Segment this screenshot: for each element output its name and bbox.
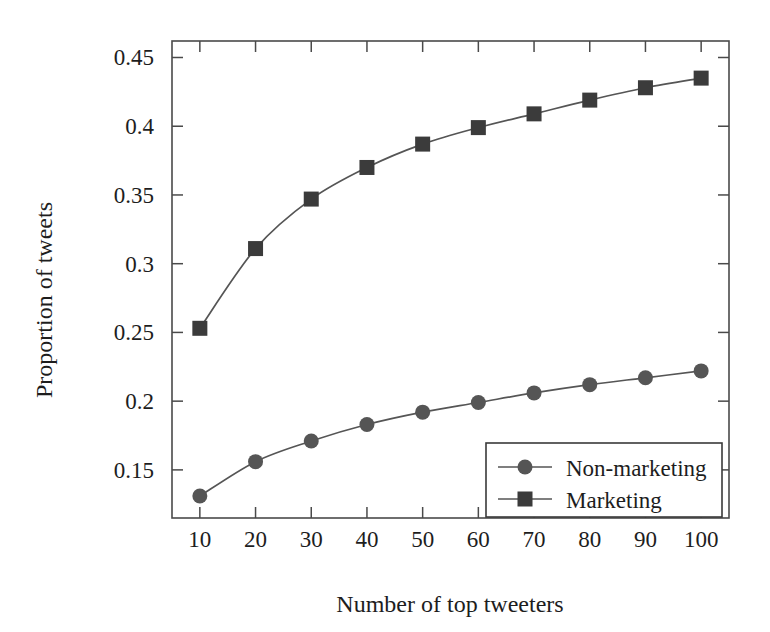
data-point-square [694,71,709,86]
x-tick-label: 10 [188,527,211,552]
y-tick-label: 0.35 [114,183,154,208]
y-tick-label: 0.3 [125,252,154,277]
x-tick-label: 100 [684,527,719,552]
data-point-square [192,321,207,336]
chart-legend: Non-marketing Marketing [486,443,722,517]
data-point-circle [471,395,486,410]
legend-label-marketing: Marketing [566,488,662,513]
y-tick-label: 0.25 [114,320,154,345]
x-axis-title: Number of top tweeters [336,591,563,617]
chart-figure: 0.150.20.250.30.350.40.45 10203040506070… [0,0,770,632]
line-chart-canvas: 0.150.20.250.30.350.40.45 10203040506070… [0,0,770,632]
data-point-square [582,93,597,108]
data-point-circle [694,363,709,378]
data-point-circle [359,417,374,432]
data-point-square [304,192,319,207]
y-tick-label: 0.2 [125,389,154,414]
x-tick-label: 60 [467,527,490,552]
legend-label-non-marketing: Non-marketing [566,456,707,481]
series-line [200,78,701,328]
data-point-circle [304,434,319,449]
legend-marker-circle-icon [518,460,533,475]
y-tick-label: 0.4 [125,114,154,139]
data-point-circle [527,385,542,400]
legend-marker-square-icon [518,492,533,507]
y-axis-title: Proportion of tweets [31,202,57,398]
data-point-square [415,137,430,152]
data-point-square [359,160,374,175]
x-tick-label: 20 [244,527,267,552]
x-tick-label: 80 [578,527,601,552]
x-tick-label: 40 [355,527,378,552]
x-tick-label: 30 [300,527,323,552]
y-tick-label: 0.15 [114,458,154,483]
x-axis-tick-labels: 102030405060708090100 [188,527,718,552]
series-marketing [192,71,708,336]
data-point-square [471,120,486,135]
data-point-circle [582,377,597,392]
data-point-circle [415,405,430,420]
data-point-square [638,80,653,95]
data-point-square [527,106,542,121]
data-point-circle [192,489,207,504]
data-point-square [248,241,263,256]
data-point-circle [638,370,653,385]
x-tick-label: 70 [523,527,546,552]
data-series-layer [192,71,708,504]
y-tick-label: 0.45 [114,45,154,70]
y-axis-tick-labels: 0.150.20.250.30.350.40.45 [114,45,155,482]
data-point-circle [248,454,263,469]
x-tick-label: 90 [634,527,657,552]
x-tick-label: 50 [411,527,434,552]
